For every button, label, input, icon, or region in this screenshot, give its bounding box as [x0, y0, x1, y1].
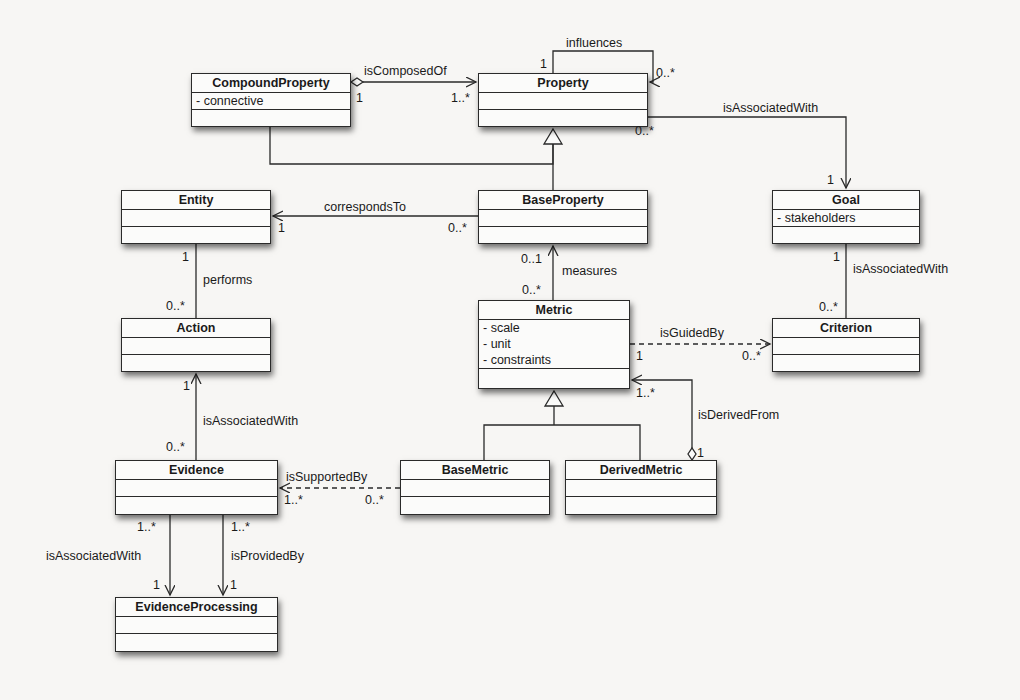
multiplicity: 0..*	[166, 440, 185, 454]
multiplicity: 0..*	[635, 124, 654, 138]
multiplicity: 1	[833, 250, 840, 264]
is-composed-of-connector	[351, 78, 476, 86]
relation-label: isAssociatedWith	[723, 101, 818, 115]
relation-label: measures	[562, 264, 617, 278]
multiplicity: 1	[278, 221, 285, 235]
multiplicity: 1	[153, 578, 160, 592]
class-attributes	[566, 480, 716, 497]
class-operations	[122, 227, 270, 243]
class-compound-property[interactable]: CompoundProperty - connective	[191, 73, 351, 127]
class-property[interactable]: Property	[478, 73, 648, 127]
multiplicity: 1..*	[636, 386, 655, 400]
class-name: Entity	[122, 191, 270, 210]
class-name: EvidenceProcessing	[116, 598, 277, 617]
class-attribute: - unit	[483, 336, 625, 352]
relation-label: isGuidedBy	[660, 326, 724, 340]
multiplicity: 0..*	[365, 493, 384, 507]
class-operations	[401, 497, 549, 513]
relation-label: influences	[566, 36, 622, 50]
class-name: Criterion	[773, 319, 919, 338]
class-operations	[773, 355, 919, 371]
multiplicity: 0..*	[448, 221, 467, 235]
multiplicity: 1..*	[231, 520, 250, 534]
multiplicity: 1..*	[284, 493, 303, 507]
class-metric[interactable]: Metric - scale - unit - constraints	[478, 300, 630, 389]
class-operations	[479, 110, 647, 126]
class-attributes: - scale - unit - constraints	[479, 320, 629, 369]
property-goal-connector	[648, 117, 846, 188]
class-attribute: - stakeholders	[777, 210, 915, 226]
multiplicity: 0..1	[521, 252, 542, 266]
relation-label: isSupportedBy	[286, 470, 367, 484]
class-name: DerivedMetric	[566, 461, 716, 480]
metric-generalization-connector	[484, 406, 640, 460]
class-attributes	[122, 338, 270, 355]
class-entity[interactable]: Entity	[121, 190, 271, 244]
class-name: Goal	[773, 191, 919, 210]
class-base-property[interactable]: BaseProperty	[478, 190, 648, 244]
generalization-triangle-icon	[545, 391, 563, 406]
relation-label: correspondsTo	[324, 200, 406, 214]
multiplicity: 1..*	[137, 520, 156, 534]
compound-generalization-connector	[270, 127, 553, 164]
class-operations	[773, 227, 919, 243]
multiplicity: 1	[356, 91, 363, 105]
class-name: Property	[479, 74, 647, 93]
multiplicity: 0..*	[819, 300, 838, 314]
multiplicity: 0..*	[166, 299, 185, 313]
relation-label: isAssociatedWith	[203, 414, 298, 428]
class-derived-metric[interactable]: DerivedMetric	[565, 460, 717, 515]
class-attribute: - constraints	[483, 352, 625, 368]
aggregation-diamond-icon	[688, 448, 696, 460]
class-name: CompoundProperty	[192, 74, 350, 93]
class-operations	[479, 227, 647, 243]
relation-label: isComposedOf	[364, 64, 447, 78]
class-attributes	[116, 617, 277, 634]
relation-label: isDerivedFrom	[698, 408, 779, 422]
class-attribute: - scale	[483, 320, 625, 336]
multiplicity: 0..*	[742, 349, 761, 363]
multiplicity: 1	[230, 578, 237, 592]
class-attribute: - connective	[196, 93, 346, 109]
class-name: BaseProperty	[479, 191, 647, 210]
class-goal[interactable]: Goal - stakeholders	[772, 190, 920, 244]
class-evidence-processing[interactable]: EvidenceProcessing	[115, 597, 278, 652]
class-operations	[192, 110, 350, 126]
class-name: Action	[122, 319, 270, 338]
class-criterion[interactable]: Criterion	[772, 318, 920, 372]
class-operations	[116, 634, 277, 650]
multiplicity: 1	[540, 57, 547, 71]
class-operations	[116, 497, 277, 513]
class-attributes	[773, 338, 919, 355]
class-base-metric[interactable]: BaseMetric	[400, 460, 550, 515]
generalization-triangle-icon	[544, 129, 562, 144]
class-name: Metric	[479, 301, 629, 320]
relation-label: isAssociatedWith	[853, 262, 948, 276]
multiplicity: 0..*	[656, 66, 675, 80]
relation-label: isProvidedBy	[231, 549, 304, 563]
aggregation-diamond-icon	[351, 78, 363, 86]
class-operations	[566, 497, 716, 513]
class-attributes: - stakeholders	[773, 210, 919, 227]
multiplicity: 1	[827, 173, 834, 187]
class-action[interactable]: Action	[121, 318, 271, 372]
class-name: BaseMetric	[401, 461, 549, 480]
relation-label: isAssociatedWith	[46, 549, 141, 563]
multiplicity: 1	[182, 250, 189, 264]
multiplicity: 1	[636, 349, 643, 363]
multiplicity: 1..*	[451, 91, 470, 105]
class-operations	[479, 369, 629, 385]
class-attributes	[479, 93, 647, 110]
class-name: Evidence	[116, 461, 277, 480]
relation-label: performs	[203, 273, 252, 287]
multiplicity: 1	[183, 379, 190, 393]
uml-class-diagram: CompoundProperty - connective Property G…	[0, 0, 1020, 700]
class-evidence[interactable]: Evidence	[115, 460, 278, 515]
class-attributes	[401, 480, 549, 497]
class-operations	[122, 355, 270, 371]
class-attributes	[479, 210, 647, 227]
class-attributes	[116, 480, 277, 497]
class-attributes	[122, 210, 270, 227]
multiplicity: 1	[697, 446, 704, 460]
class-attributes: - connective	[192, 93, 350, 110]
